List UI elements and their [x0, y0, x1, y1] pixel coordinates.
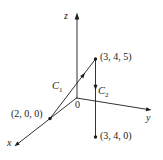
y-axis-arrowhead [146, 107, 152, 111]
axes-and-curves-canvas [0, 0, 163, 160]
3d-coordinate-diagram: z y x 0 C1 C2 (3, 4, 5) (2, 0, 0) (3, 4,… [0, 0, 163, 160]
origin-label: 0 [75, 99, 80, 110]
curve-c2-letter: C [98, 85, 105, 96]
curve-c1-letter: C [52, 80, 59, 91]
point-3-4-0-dot [94, 135, 97, 138]
y-axis-label: y [146, 112, 150, 123]
y-axis-line [77, 98, 148, 109]
x-axis-label: x [7, 137, 11, 148]
curve-c1-subscript: 1 [59, 86, 63, 94]
point-2-0-0-label: (2, 0, 0) [11, 108, 43, 119]
x-axis-line [18, 98, 77, 144]
curve-c2-label: C2 [98, 85, 109, 96]
point-3-4-0-label: (3, 4, 0) [100, 130, 132, 141]
curve-c1-label: C1 [52, 80, 63, 91]
z-axis-label: z [64, 10, 68, 21]
x-axis-arrowhead [15, 141, 20, 146]
point-3-4-5-dot [94, 57, 97, 60]
curve-c2-subscript: 2 [105, 91, 109, 99]
z-axis-arrowhead [75, 13, 80, 20]
curve-c2-arrowhead [94, 85, 98, 91]
point-3-4-5-label: (3, 4, 5) [100, 51, 132, 62]
point-2-0-0-dot [48, 117, 51, 120]
